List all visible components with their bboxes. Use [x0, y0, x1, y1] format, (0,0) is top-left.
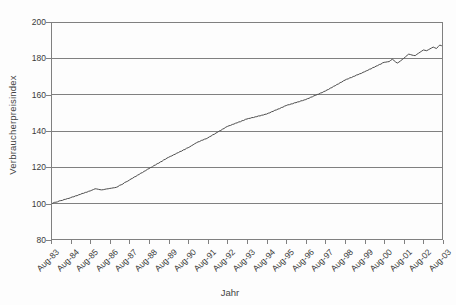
series-line — [51, 45, 443, 204]
y-tick-mark — [46, 131, 51, 132]
x-tick-mark — [51, 240, 52, 244]
y-tick-mark — [46, 58, 51, 59]
x-tick-mark — [384, 240, 385, 244]
x-tick-mark — [286, 240, 287, 244]
y-tick-label: 200 — [14, 17, 46, 27]
x-tick-mark — [110, 240, 111, 244]
x-tick-mark — [129, 240, 130, 244]
x-tick-mark — [404, 240, 405, 244]
y-tick-label: 100 — [14, 199, 46, 209]
y-tick-label: 80 — [14, 235, 46, 245]
x-tick-mark — [188, 240, 189, 244]
y-tick-label: 120 — [14, 162, 46, 172]
x-tick-mark — [208, 240, 209, 244]
y-tick-label: 180 — [14, 53, 46, 63]
x-tick-mark — [90, 240, 91, 244]
x-tick-mark — [169, 240, 170, 244]
chart-figure: Verbraucherpreisindex 200180160140120100… — [0, 0, 456, 305]
x-tick-mark — [247, 240, 248, 244]
plot-area — [51, 22, 443, 240]
plot-svg — [51, 22, 443, 240]
x-tick-mark — [365, 240, 366, 244]
x-tick-mark — [149, 240, 150, 244]
y-tick-mark — [46, 204, 51, 205]
x-tick-mark — [227, 240, 228, 244]
x-tick-mark — [306, 240, 307, 244]
x-tick-mark — [443, 240, 444, 244]
x-tick-mark — [267, 240, 268, 244]
y-tick-mark — [46, 95, 51, 96]
x-tick-mark — [345, 240, 346, 244]
y-tick-label: 140 — [14, 126, 46, 136]
x-tick-mark — [325, 240, 326, 244]
x-axis-title: Jahr — [130, 287, 330, 298]
y-tick-label: 160 — [14, 90, 46, 100]
x-tick-mark — [71, 240, 72, 244]
x-tick-mark — [423, 240, 424, 244]
y-tick-mark — [46, 22, 51, 23]
y-tick-mark — [46, 167, 51, 168]
